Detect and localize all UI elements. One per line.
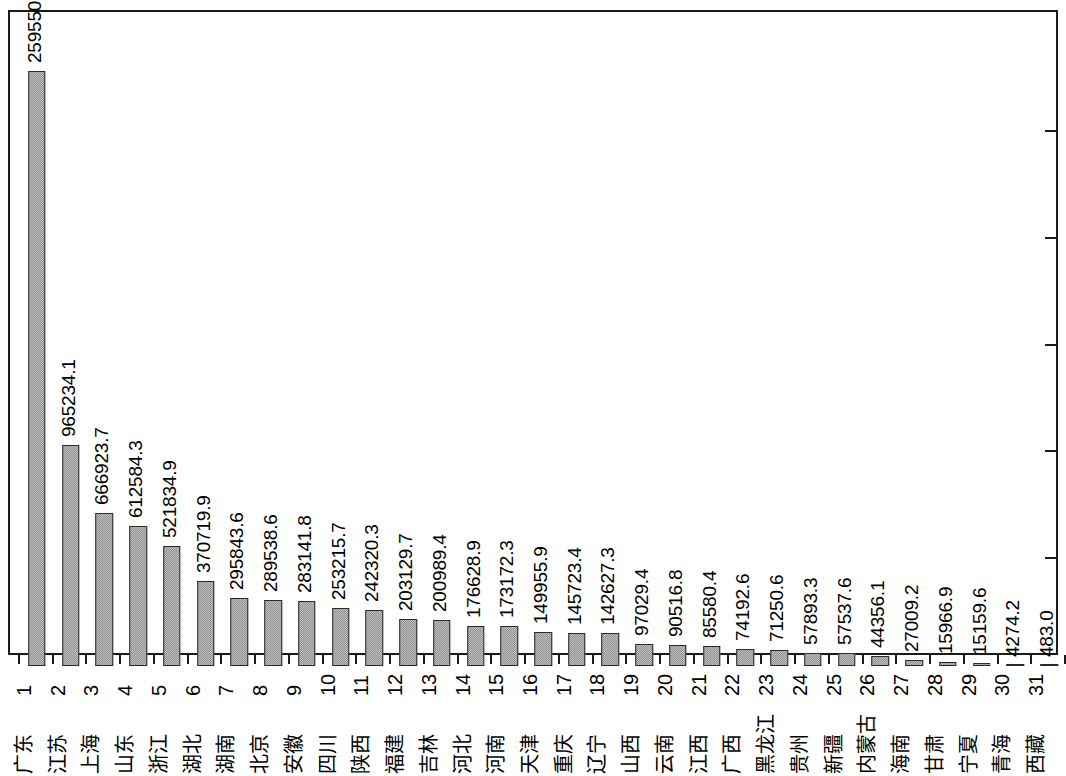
x-category-label-cell: 山西 (617, 698, 651, 776)
bar-group: 71250.6 (762, 24, 796, 666)
x-category-label: 广西 (722, 734, 742, 774)
x-rank-label-cell: 10 (314, 662, 348, 696)
bar-value-label: 173172.3 (497, 541, 516, 619)
bar-value-label: 612584.3 (126, 440, 145, 518)
bar-value-label: 521834.9 (160, 461, 179, 539)
bar-group: 965234.1 (54, 24, 88, 666)
x-category-label-cell: 河北 (449, 698, 483, 776)
bar-group: 283141.8 (290, 24, 324, 666)
y-axis-tick (1045, 130, 1056, 132)
bar-value-label: 85580.4 (700, 571, 719, 638)
x-axis-category-labels: 广东江苏上海山东浙江湖北湖南北京安徽四川陕西福建吉林河北河南天津重庆辽宁山西云南… (10, 698, 1056, 776)
x-category-label-cell: 甘肃 (921, 698, 955, 776)
x-rank-label: 20 (655, 674, 675, 696)
x-category-label: 江西 (688, 734, 708, 774)
y-axis-tick (1045, 450, 1056, 452)
bar-group: 44356.1 (864, 24, 898, 666)
x-rank-label-cell: 15 (482, 662, 516, 696)
x-category-label-cell: 江西 (685, 698, 719, 776)
bar-value-label: 74192.6 (733, 574, 752, 641)
x-category-label: 四川 (317, 734, 337, 774)
x-rank-label: 31 (1026, 674, 1046, 696)
x-rank-label-cell: 14 (449, 662, 483, 696)
x-category-label: 天津 (520, 734, 540, 774)
x-category-label-cell: 青海 (989, 698, 1023, 776)
bar-value-label: 71250.6 (767, 574, 786, 641)
x-rank-label: 8 (250, 685, 270, 696)
x-rank-label-cell: 28 (921, 662, 955, 696)
x-rank-label-cell: 5 (145, 662, 179, 696)
bar-value-label: 15966.9 (936, 587, 955, 654)
x-category-label-cell: 浙江 (145, 698, 179, 776)
x-category-label: 新疆 (823, 734, 843, 774)
x-category-label: 重庆 (553, 734, 573, 774)
x-category-label: 湖北 (182, 734, 202, 774)
bar-value-label: 44356.1 (868, 581, 887, 648)
x-category-label-cell: 新疆 (820, 698, 854, 776)
x-rank-label: 30 (992, 674, 1012, 696)
x-rank-label: 26 (857, 674, 877, 696)
x-category-label: 江苏 (47, 734, 67, 774)
x-rank-label: 19 (621, 674, 641, 696)
bar-group: 612584.3 (121, 24, 155, 666)
bar-value-label: 283141.8 (295, 515, 314, 593)
bar-group: 203129.7 (391, 24, 425, 666)
x-rank-label-cell: 17 (550, 662, 584, 696)
x-category-label-cell: 湖南 (212, 698, 246, 776)
bar-value-label: 15159.6 (970, 587, 989, 654)
bar-value-label: 97029.4 (632, 568, 651, 635)
x-category-label: 贵州 (790, 734, 810, 774)
bar (197, 581, 215, 666)
x-rank-label-cell: 21 (685, 662, 719, 696)
x-rank-label: 27 (891, 674, 911, 696)
x-rank-label: 9 (284, 685, 304, 696)
x-axis-rank-labels: 1234567891011121314151617181920212223242… (10, 662, 1056, 696)
x-rank-label-cell: 31 (1022, 662, 1056, 696)
x-rank-label-cell: 23 (752, 662, 786, 696)
x-rank-label: 12 (385, 674, 405, 696)
x-category-label-cell: 福建 (381, 698, 415, 776)
x-rank-label: 29 (959, 674, 979, 696)
x-rank-label: 15 (486, 674, 506, 696)
x-category-label-cell: 黑龙江 (752, 698, 786, 776)
bar-group: 295843.6 (222, 24, 256, 666)
bar-value-label: 483.0 (1037, 610, 1056, 657)
x-rank-label-cell: 7 (212, 662, 246, 696)
bar-group: 2595506.9 (20, 24, 54, 666)
x-rank-label: 1 (14, 685, 34, 696)
x-category-label-cell: 内蒙古 (854, 698, 888, 776)
bar-value-label: 149955.9 (531, 546, 550, 624)
x-rank-label-cell: 8 (246, 662, 280, 696)
x-category-label: 西藏 (1026, 734, 1046, 774)
x-rank-label: 5 (149, 685, 169, 696)
bar-group: 15966.9 (931, 24, 965, 666)
x-category-label-cell: 陕西 (347, 698, 381, 776)
x-rank-label: 2 (48, 685, 68, 696)
x-rank-label: 25 (824, 674, 844, 696)
bar-value-label: 57893.3 (801, 577, 820, 644)
x-rank-label-cell: 29 (955, 662, 989, 696)
x-rank-label-cell: 16 (516, 662, 550, 696)
x-category-label: 浙江 (148, 734, 168, 774)
bar-value-label: 295843.6 (227, 513, 246, 591)
bar-value-label: 176628.9 (464, 540, 483, 618)
x-rank-label: 28 (925, 674, 945, 696)
bar-group: 27009.2 (897, 24, 931, 666)
x-category-label: 甘肃 (925, 734, 945, 774)
bar-chart: 2595506.9965234.1666923.7612584.3521834.… (0, 0, 1066, 776)
bar (163, 546, 181, 666)
x-rank-label-cell: 26 (854, 662, 888, 696)
bar-group: 57893.3 (796, 24, 830, 666)
x-category-label-cell: 吉林 (415, 698, 449, 776)
x-rank-label: 6 (183, 685, 203, 696)
bar-group: 4274.2 (999, 24, 1033, 666)
x-category-label: 内蒙古 (857, 714, 877, 774)
x-category-label: 上海 (81, 734, 101, 774)
x-rank-label: 17 (554, 674, 574, 696)
x-rank-label-cell: 24 (786, 662, 820, 696)
bar-value-label: 142627.3 (598, 548, 617, 626)
x-rank-label: 16 (520, 674, 540, 696)
bar-value-label: 27009.2 (902, 585, 921, 652)
x-rank-label: 18 (587, 674, 607, 696)
x-rank-label-cell: 1 (10, 662, 44, 696)
